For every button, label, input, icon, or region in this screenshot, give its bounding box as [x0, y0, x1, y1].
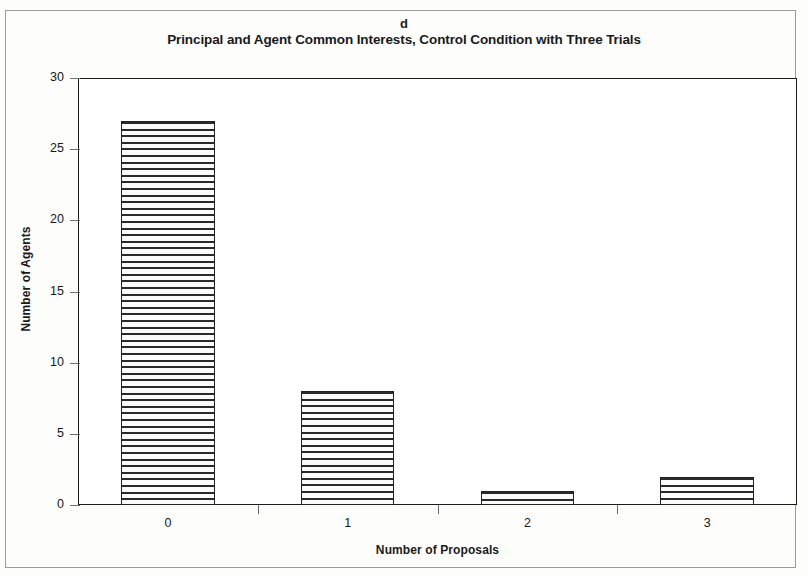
y-axis-tick-label: 25	[0, 141, 64, 155]
bar	[481, 491, 574, 505]
y-axis-tick-label: 0	[0, 497, 64, 511]
bar	[301, 391, 394, 505]
x-axis-title: Number of Proposals	[78, 543, 797, 557]
y-axis-tick-label: 10	[0, 355, 64, 369]
x-axis-tick	[617, 505, 618, 514]
x-axis-tick	[258, 505, 259, 514]
panel-label: d	[0, 16, 808, 31]
y-axis-tick	[70, 78, 80, 79]
x-axis-tick-label: 1	[308, 516, 388, 530]
y-axis-tick-label: 30	[0, 70, 64, 84]
y-axis-tick-label: 5	[0, 426, 64, 440]
y-axis-title: Number of Agents	[19, 209, 33, 349]
bar	[121, 121, 214, 505]
x-axis-tick-label: 0	[128, 516, 208, 530]
x-axis-tick-label: 3	[667, 516, 747, 530]
y-axis-tick	[70, 149, 80, 150]
x-axis-tick-label: 2	[487, 516, 567, 530]
y-axis-tick	[70, 434, 80, 435]
y-axis-tick	[70, 220, 80, 221]
figure-container: d Principal and Agent Common Interests, …	[0, 0, 808, 576]
chart-title: Principal and Agent Common Interests, Co…	[0, 32, 808, 47]
y-axis-tick	[70, 292, 80, 293]
bar	[660, 477, 753, 505]
y-axis-tick	[70, 505, 80, 506]
x-axis-tick	[438, 505, 439, 514]
y-axis-tick	[70, 363, 80, 364]
